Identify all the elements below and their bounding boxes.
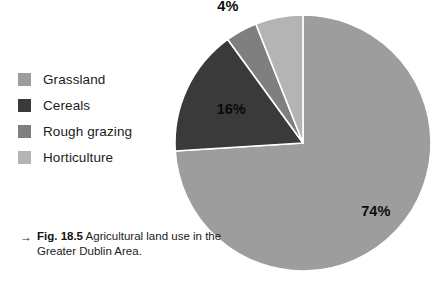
chart-legend: Grassland Cereals Rough grazing Horticul…	[18, 68, 178, 172]
legend-item-grassland: Grassland	[18, 68, 178, 91]
pie-slice-label: 74%	[361, 203, 390, 219]
pie-slice	[175, 39, 303, 151]
legend-label-rough-grazing: Rough grazing	[43, 125, 132, 139]
figure-page: Grassland Cereals Rough grazing Horticul…	[0, 0, 445, 290]
pie-slice-label: 6%	[264, 0, 285, 3]
legend-label-horticulture: Horticulture	[43, 151, 113, 165]
caption-figure-number: Fig. 18.5	[37, 230, 83, 242]
pie-slice-label: 16%	[217, 101, 246, 117]
legend-swatch-icon-cereals	[18, 99, 31, 112]
legend-swatch-icon-rough-grazing	[18, 125, 31, 138]
pie-slice	[228, 24, 303, 143]
legend-swatch-icon-horticulture	[18, 151, 31, 164]
legend-swatch-icon-grassland	[18, 73, 31, 86]
pie-label-group: 74%16%4%6%	[217, 0, 391, 219]
legend-item-rough-grazing: Rough grazing	[18, 120, 178, 143]
legend-label-grassland: Grassland	[43, 73, 105, 87]
caption-arrow-icon: →	[20, 230, 32, 245]
pie-slice	[256, 15, 303, 143]
caption-body: Fig. 18.5 Agricultural land use in the G…	[37, 229, 225, 259]
legend-item-horticulture: Horticulture	[18, 146, 178, 169]
figure-caption: → Fig. 18.5 Agricultural land use in the…	[20, 229, 225, 259]
legend-label-cereals: Cereals	[43, 99, 90, 113]
pie-slice-label: 4%	[217, 0, 238, 14]
legend-item-cereals: Cereals	[18, 94, 178, 117]
